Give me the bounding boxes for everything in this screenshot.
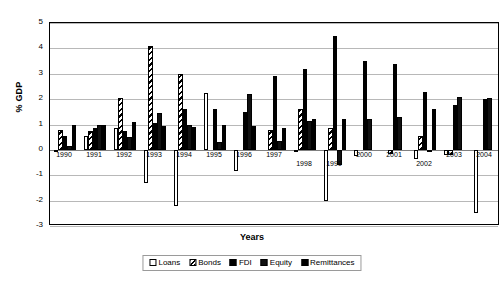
bar-remittances-1998	[312, 119, 317, 149]
legend-item-fdi: FDI	[230, 258, 252, 267]
x-axis-tick-label-2003: 2003	[446, 151, 462, 158]
gridline	[50, 48, 498, 49]
legend-label-loans: Loans	[158, 258, 180, 267]
x-axis-tick-label-1992: 1992	[116, 151, 132, 158]
gridline	[50, 74, 498, 75]
legend-label-fdi: FDI	[239, 258, 252, 267]
legend-label-remittances: Remittances	[310, 258, 354, 267]
x-axis-tick-label-2001: 2001	[386, 151, 402, 158]
y-axis-tick-label: 0	[23, 144, 43, 153]
x-axis-tick-label-1996: 1996	[236, 151, 252, 158]
legend-swatch-remittances	[301, 259, 308, 266]
bar-equity-2000	[367, 119, 372, 149]
x-axis-tick-label-1999: 1999	[326, 160, 342, 167]
x-axis-tick-label-1995: 1995	[206, 151, 222, 158]
legend-item-bonds: Bonds	[189, 258, 221, 267]
x-axis-tick-label-1994: 1994	[176, 151, 192, 158]
bar-remittances-1997	[282, 128, 287, 150]
bar-loans-1998	[294, 150, 299, 153]
bar-remittances-1993	[162, 126, 167, 150]
gridline	[50, 23, 498, 24]
bar-loans-1999	[324, 150, 329, 201]
y-axis-tick-label: -2	[23, 195, 43, 204]
x-axis-tick-label-1993: 1993	[146, 151, 162, 158]
x-axis-tick-label-1998: 1998	[296, 160, 312, 167]
x-axis-tick-label-2002: 2002	[416, 160, 432, 167]
legend-label-bonds: Bonds	[198, 258, 221, 267]
bar-remittances-2002	[432, 109, 437, 150]
legend-item-remittances: Remittances	[301, 258, 354, 267]
legend-item-loans: Loans	[149, 258, 180, 267]
y-axis-tick-label: -3	[23, 220, 43, 229]
x-axis-tick-label-2000: 2000	[356, 151, 372, 158]
legend-label-equity: Equity	[270, 258, 292, 267]
x-axis-tick-label-1991: 1991	[86, 151, 102, 158]
x-axis-tick-label-1990: 1990	[56, 151, 72, 158]
legend-item-equity: Equity	[261, 258, 292, 267]
chart-container: % GDP 543210-1-2-3 199019911992199319941…	[0, 0, 504, 287]
bar-loans-2004	[474, 150, 479, 213]
gridline	[50, 201, 498, 202]
bar-equity-2001	[397, 117, 402, 150]
bar-fdi-1999	[333, 36, 338, 150]
bar-remittances-1999	[342, 119, 347, 149]
legend-swatch-bonds	[189, 259, 196, 266]
bar-remittances-1991	[102, 125, 107, 150]
x-axis-tick-label-1997: 1997	[266, 151, 282, 158]
y-axis-tick-label: 4	[23, 42, 43, 51]
chart-legend: Loans Bonds FDI Equity Remittances	[142, 255, 361, 271]
bar-loans-1995	[204, 93, 209, 150]
gridline	[50, 175, 498, 176]
legend-swatch-equity	[261, 259, 268, 266]
y-axis-tick-label: 3	[23, 68, 43, 77]
bar-remittances-1996	[252, 126, 257, 150]
bar-remittances-1995	[222, 125, 227, 150]
legend-swatch-fdi	[230, 259, 237, 266]
x-axis-title: Years	[0, 232, 504, 242]
bar-remittances-1992	[132, 122, 137, 150]
y-axis-tick-label: 2	[23, 93, 43, 102]
bar-fdi-2002	[423, 92, 428, 150]
y-axis-tick-label: 5	[23, 17, 43, 26]
gridline	[50, 226, 498, 227]
bar-equity-2003	[457, 97, 462, 150]
x-axis-tick-label-2004: 2004	[476, 151, 492, 158]
bar-fdi-1997	[273, 76, 278, 150]
y-axis-tick-label: -1	[23, 169, 43, 178]
bar-equity-2004	[487, 98, 492, 150]
bar-equity-2002	[427, 150, 432, 152]
bar-loans-1994	[174, 150, 179, 206]
plot-area	[49, 22, 499, 225]
bar-remittances-1994	[192, 127, 197, 150]
bar-loans-2002	[414, 150, 419, 159]
bar-remittances-1990	[72, 125, 77, 150]
legend-swatch-loans	[149, 259, 156, 266]
y-axis-tick-label: 1	[23, 119, 43, 128]
